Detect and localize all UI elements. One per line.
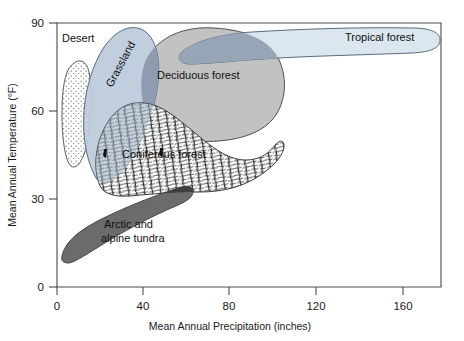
region-label-desert: Desert <box>62 32 94 44</box>
x-tick-label-0: 0 <box>54 300 60 312</box>
region-label-deciduous-forest: Deciduous forest <box>157 69 240 81</box>
x-tick-label-40: 40 <box>137 300 150 312</box>
x-axis-title: Mean Annual Precipitation (inches) <box>149 320 311 332</box>
chart-canvas: Desert Grassland Deciduous forest Conife… <box>0 0 464 341</box>
y-tick-label-30: 30 <box>31 193 44 205</box>
y-axis-title: Mean Annual Temperature (°F) <box>6 83 18 227</box>
x-tick-label-160: 160 <box>393 300 412 312</box>
y-tick-label-60: 60 <box>31 105 44 117</box>
biome-climate-chart: Desert Grassland Deciduous forest Conife… <box>0 0 464 341</box>
y-tick-label-90: 90 <box>31 17 44 29</box>
region-label-tundra-line2: alpine tundra <box>101 232 165 244</box>
y-tick-label-0: 0 <box>38 281 44 293</box>
region-label-coniferous-forest: Coniferous forest <box>122 148 206 160</box>
x-axis-ticks <box>57 287 403 295</box>
region-label-tundra-line1: Arctic and <box>104 218 153 230</box>
region-label-tropical-forest: Tropical forest <box>345 31 414 43</box>
y-axis-ticks <box>49 23 57 287</box>
x-tick-label-80: 80 <box>223 300 236 312</box>
x-tick-label-120: 120 <box>306 300 325 312</box>
